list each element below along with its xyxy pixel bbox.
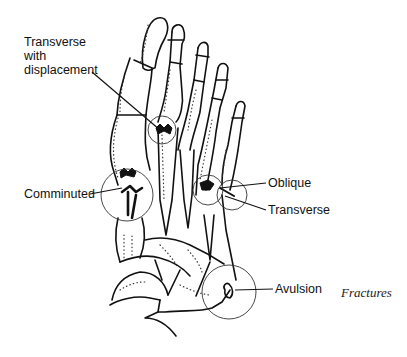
label-line: displacement	[24, 63, 98, 77]
label-transverse: Transverse	[268, 203, 330, 217]
figure-caption: Fractures	[341, 285, 392, 301]
label-oblique: Oblique	[268, 176, 311, 190]
label-avulsion: Avulsion	[275, 282, 322, 296]
label-line: Transverse	[24, 35, 98, 49]
label-line: with	[24, 49, 98, 63]
label-comminuted: Comminuted	[24, 187, 95, 201]
label-transverse-with-displacement: Transverse with displacement	[24, 35, 98, 77]
